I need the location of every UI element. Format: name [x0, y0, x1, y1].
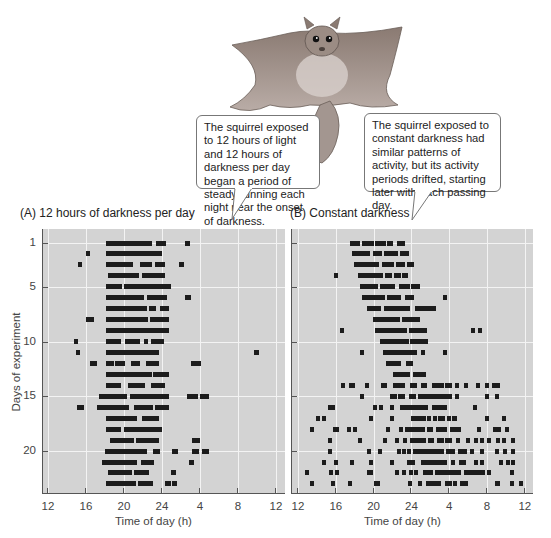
activity-bout [106, 262, 134, 267]
activity-bout [455, 383, 459, 388]
activity-bout [99, 394, 127, 399]
activity-bout [86, 317, 94, 322]
activity-bout [476, 383, 480, 388]
activity-bout [426, 481, 441, 486]
activity-bout [470, 449, 474, 454]
activity-bout [485, 383, 489, 388]
panel-b-title: (B) Constant darkness [290, 206, 409, 220]
activity-bout [410, 438, 425, 443]
activity-bout [378, 449, 382, 454]
y-tick-label: 20 [16, 444, 36, 456]
activity-bout [393, 394, 397, 399]
activity-bout [191, 361, 201, 366]
activity-bout [373, 251, 382, 256]
activity-bout [171, 470, 177, 475]
activity-bout [331, 481, 335, 486]
activity-bout [480, 460, 484, 465]
activity-bout [192, 449, 199, 454]
activity-bout [402, 273, 408, 278]
activity-bout [458, 449, 467, 454]
activity-bout [125, 339, 140, 344]
activity-bout [348, 481, 352, 486]
activity-bout [106, 427, 121, 432]
gridline-vertical [525, 229, 526, 493]
activity-bout [140, 262, 152, 267]
activity-bout [142, 273, 165, 278]
activity-bout [138, 481, 153, 486]
activity-bout [421, 383, 428, 388]
activity-bout [373, 317, 400, 322]
activity-bout [340, 328, 344, 333]
activity-bout [406, 361, 414, 366]
x-tick-label: 12 [42, 500, 55, 512]
activity-bout [373, 405, 377, 410]
activity-bout [511, 449, 515, 454]
activity-bout [90, 361, 98, 366]
activity-bout [460, 481, 469, 486]
activity-bout [405, 295, 414, 300]
activity-bout [151, 339, 164, 344]
activity-bout [106, 350, 159, 355]
x-tick-label: 20 [118, 500, 131, 512]
activity-bout [367, 449, 371, 454]
y-tick [292, 287, 297, 288]
activity-bout [350, 241, 360, 246]
activity-bout [497, 427, 501, 432]
x-tick [47, 488, 48, 493]
y-tick [43, 243, 48, 244]
activity-bout [106, 361, 114, 366]
y-tick-label: 5 [16, 280, 36, 292]
activity-bout [427, 427, 433, 432]
activity-bout [409, 328, 427, 333]
activity-bout [383, 438, 387, 443]
y-tick-label: 15 [16, 389, 36, 401]
activity-bout [485, 416, 489, 421]
gridline-horizontal [43, 342, 285, 343]
activity-bout [443, 295, 447, 300]
activity-bout [407, 460, 411, 465]
activity-bout [333, 427, 339, 432]
activity-bout [367, 470, 373, 475]
activity-bout [134, 405, 153, 410]
activity-bout [432, 405, 447, 410]
activity-bout [382, 262, 394, 267]
activity-bout [200, 394, 209, 399]
activity-bout [400, 251, 409, 256]
activity-bout [464, 470, 485, 475]
activity-bout [400, 405, 428, 410]
activity-bout [136, 438, 159, 443]
activity-bout [456, 438, 460, 443]
activity-bout [110, 438, 134, 443]
callout-constant-darkness: The squirrel exposed to constant darknes… [364, 113, 501, 192]
activity-bout [487, 438, 491, 443]
activity-bout [375, 241, 386, 246]
activity-bout [410, 383, 418, 388]
x-tick [335, 488, 336, 493]
activity-bout [511, 438, 515, 443]
activity-bout [395, 470, 399, 475]
x-tick-label: 8 [235, 500, 241, 512]
activity-bout [328, 438, 332, 443]
x-tick [199, 488, 200, 493]
panel-a-title: (A) 12 hours of darkness per day [20, 206, 195, 220]
activity-bout [451, 460, 455, 465]
activity-bout [349, 383, 355, 388]
x-tick [85, 488, 86, 493]
activity-bout [360, 350, 364, 355]
activity-bout [447, 416, 451, 421]
callout-a-pointer [230, 187, 260, 221]
activity-bout [407, 262, 415, 267]
x-tick-label: 4 [197, 500, 203, 512]
activity-bout [399, 284, 409, 289]
activity-bout [367, 306, 381, 311]
activity-bout [415, 306, 436, 311]
activity-bout [153, 372, 168, 377]
x-tick-label: 12 [292, 500, 305, 512]
activity-bout [506, 460, 510, 465]
activity-bout [328, 449, 332, 454]
activity-bout [398, 394, 405, 399]
activity-bout [106, 317, 148, 322]
activity-bout [409, 427, 425, 432]
activity-bout [379, 405, 383, 410]
activity-bout [155, 405, 168, 410]
